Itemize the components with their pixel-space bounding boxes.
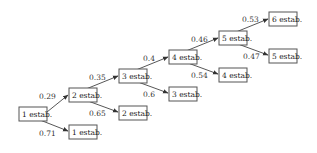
prob-label: 0.46 [191,35,208,44]
prob-label: 0.47 [243,52,260,61]
svg-text:2 estab.: 2 estab. [72,91,102,100]
prob-label: 0.4 [143,54,155,63]
svg-text:3 estab.: 3 estab. [122,72,152,81]
prob-label: 0.35 [89,73,106,82]
node-5-estab: 5 estab. [219,31,252,45]
prob-label: 0.53 [242,15,259,24]
nodes: 1 estab. 2 estab. 1 estab. 3 estab. 2 es… [19,12,302,139]
node-6-estab: 6 estab. [269,12,302,26]
svg-text:5 estab.: 5 estab. [272,52,302,61]
node-2-estab: 2 estab. [69,88,102,102]
svg-text:4 estab.: 4 estab. [222,71,252,80]
node-1-estab-b: 1 estab. [69,125,102,139]
prob-label: 0.54 [191,71,208,80]
svg-text:2 estab.: 2 estab. [122,109,152,118]
node-1-estab: 1 estab. [19,107,52,121]
prob-label: 0.29 [39,92,56,101]
svg-text:5 estab.: 5 estab. [222,34,252,43]
svg-text:1 estab.: 1 estab. [72,128,102,137]
svg-text:1 estab.: 1 estab. [22,110,52,119]
svg-text:6 estab.: 6 estab. [272,15,302,24]
prob-label: 0.6 [143,90,155,99]
node-2-estab-b: 2 estab. [119,106,152,120]
probability-tree-diagram: 0.29 0.71 0.35 0.65 0.4 0.6 0.46 0.54 0.… [0,0,317,153]
prob-label: 0.65 [89,109,106,118]
node-3-estab-b: 3 estab. [169,87,202,101]
node-4-estab-b: 4 estab. [219,68,252,82]
prob-label: 0.71 [39,129,56,138]
node-3-estab: 3 estab. [119,69,152,83]
svg-text:3 estab.: 3 estab. [172,90,202,99]
node-4-estab: 4 estab. [169,50,202,64]
node-5-estab-b: 5 estab. [269,49,302,63]
svg-text:4 estab.: 4 estab. [172,53,202,62]
